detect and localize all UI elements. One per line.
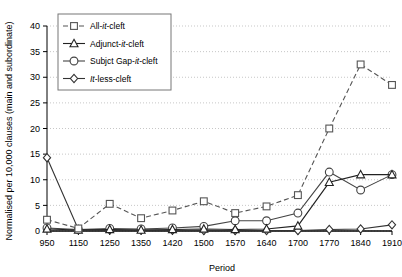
y-tick-label: 5 [35,201,40,211]
series-circle [43,168,396,233]
legend-label: Adjunct-it-cleft [90,39,144,49]
y-tick-label: 30 [30,72,40,82]
data-point-square [44,216,51,223]
x-tick-label: 1570 [225,238,245,248]
data-point-diamond [326,225,333,233]
y-tick-label: 25 [30,98,40,108]
data-point-circle [70,57,78,65]
data-point-square [138,215,145,222]
legend-item-diamond[interactable]: It-less-cleft [63,74,132,84]
y-tick-label: 40 [30,21,40,31]
x-tick-label: 1770 [319,238,339,248]
data-point-square [169,207,176,214]
x-tick-label: 1500 [194,238,214,248]
y-axis-title: Normalised per 10,000 clauses (main and … [4,21,14,240]
y-tick-label: 0 [35,226,40,236]
data-point-square [389,82,396,89]
x-tick-label: 950 [39,238,54,248]
legend-item-square[interactable]: All-it-cleft [63,21,126,31]
series-line [47,172,392,229]
data-point-diamond [43,154,50,162]
legend-label: All-it-cleft [90,21,126,31]
y-tick-label: 35 [30,47,40,57]
x-axis-title: Period [209,263,235,273]
x-tick-label: 1700 [288,238,308,248]
y-tick-label: 15 [30,149,40,159]
x-tick-label: 1910 [382,238,402,248]
data-point-circle [325,168,333,176]
series-line [47,175,392,230]
x-tick-label: 1840 [351,238,371,248]
data-point-diamond [388,221,395,229]
data-point-square [75,225,82,232]
data-point-circle [294,209,302,217]
chart-legend: All-it-cleftAdjunct-it-cleftSubjct Gap-i… [58,14,171,90]
data-point-square [357,61,364,68]
data-point-circle [263,217,271,225]
data-point-square [106,200,113,207]
data-point-square [232,210,239,217]
data-point-square [295,192,302,199]
y-tick-labels: 0510152025303540 [30,21,47,236]
chart-container: 0510152025303540 95011501250135014201500… [0,0,402,277]
legend-label: It-less-cleft [90,74,132,84]
data-point-circle [357,186,365,194]
x-tick-label: 1420 [162,238,182,248]
data-point-diamond [357,225,364,233]
line-chart: 0510152025303540 95011501250135014201500… [0,0,402,277]
data-point-square [200,198,207,205]
series-line [47,158,392,231]
x-tick-label: 1640 [257,238,277,248]
y-tick-label: 20 [30,124,40,134]
x-tick-labels: 9501150125013501420150015701640170017701… [39,231,402,248]
data-point-square [263,203,270,210]
y-tick-label: 10 [30,175,40,185]
legend-label: Subjct Gap-it-cleft [90,56,158,66]
data-point-square [71,23,78,30]
series-diamond [43,154,395,235]
x-tick-label: 1350 [131,238,151,248]
x-tick-label: 1150 [69,238,88,248]
data-point-circle [231,217,239,225]
data-point-square [326,125,333,132]
x-tick-label: 1250 [100,238,120,248]
